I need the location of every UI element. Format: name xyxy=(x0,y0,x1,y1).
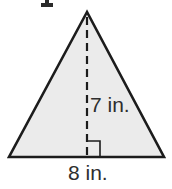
base-dimension-label: 8 in. xyxy=(68,161,108,184)
triangle-diagram: 7 in. 8 in. xyxy=(0,0,172,189)
figure-canvas: 7 in. 8 in. xyxy=(0,0,172,189)
cropped-text-fragment xyxy=(41,0,53,7)
height-dimension-label: 7 in. xyxy=(90,93,130,116)
